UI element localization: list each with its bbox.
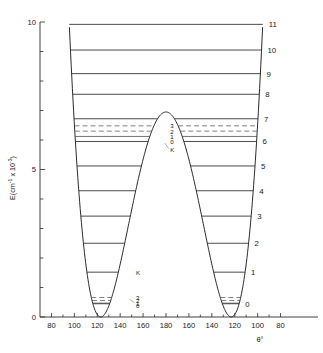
x-tick-label-0: 80 <box>47 321 55 330</box>
level-label-v7: 7 <box>264 115 268 124</box>
y-tick-label-10: 10 <box>28 18 36 27</box>
k-label-upper-K: K <box>170 146 174 153</box>
y-tick-label-0: 0 <box>32 313 36 322</box>
k-label-lower-0: 0 <box>136 302 140 309</box>
y-tick-label-5: 5 <box>32 165 36 174</box>
x-axis-title: θ° <box>256 335 263 344</box>
x-tick-label-4: 160 <box>137 321 150 330</box>
x-tick-label-3: 140 <box>114 321 127 330</box>
level-label-v2: 2 <box>255 239 259 248</box>
k-leader-upper <box>165 143 169 149</box>
potential-energy-diagram: 05108010012014016018016014012010080θ°E(c… <box>0 0 323 353</box>
x-tick-label-7: 140 <box>205 321 218 330</box>
level-label-v6: 6 <box>263 137 267 146</box>
level-label-v1: 1 <box>251 268 255 277</box>
x-tick-label-5: 180 <box>160 321 173 330</box>
level-label-v11: 11 <box>269 20 277 29</box>
level-label-v3: 3 <box>257 212 261 221</box>
level-label-v10: 10 <box>268 46 277 55</box>
x-tick-label-9: 100 <box>251 321 264 330</box>
potential-energy-curve <box>69 27 262 317</box>
level-label-v4: 4 <box>259 187 264 196</box>
x-tick-label-2: 120 <box>91 321 104 330</box>
x-tick-label-1: 100 <box>68 321 81 330</box>
k-label-upper-0: 0 <box>170 138 174 145</box>
x-tick-label-8: 120 <box>228 321 241 330</box>
level-label-v9: 9 <box>266 70 270 79</box>
x-tick-label-10: 80 <box>276 321 284 330</box>
level-label-v5: 5 <box>261 162 266 171</box>
k-label-lower-K: K <box>136 269 140 276</box>
level-label-v8: 8 <box>265 90 269 99</box>
y-axis-title: E(cm-1 x 10-3) <box>7 156 17 200</box>
level-label-v0: 0 <box>245 300 250 309</box>
k-leader-lower <box>130 300 135 303</box>
x-tick-label-6: 160 <box>183 321 196 330</box>
